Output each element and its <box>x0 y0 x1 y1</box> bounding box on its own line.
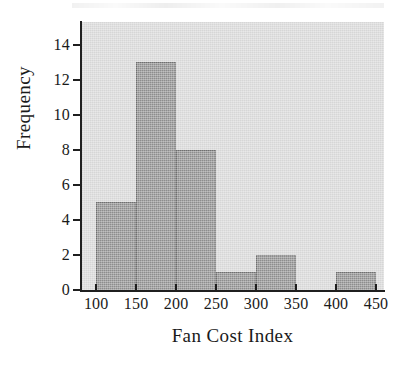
y-tick-label-wrap: 12 <box>36 72 70 88</box>
x-tick-mark <box>135 284 137 292</box>
plot-area <box>81 22 384 290</box>
x-tick-mark <box>95 284 97 292</box>
x-tick-label: 400 <box>314 295 358 313</box>
y-axis-title: Frequency <box>14 28 34 188</box>
x-tick-mark <box>295 284 297 292</box>
y-tick-label-wrap: 0 <box>36 282 70 298</box>
histogram-figure: 02468101214 100150200250300350400450 Fan… <box>0 0 401 370</box>
x-axis-title: Fan Cost Index <box>81 325 384 347</box>
y-axis-line <box>80 21 82 292</box>
x-tick-label: 250 <box>194 295 238 313</box>
x-tick-mark <box>335 284 337 292</box>
y-tick-label: 6 <box>40 177 70 193</box>
scan-artifact-band <box>72 3 384 8</box>
x-tick-label: 350 <box>274 295 318 313</box>
y-tick-mark <box>73 254 81 256</box>
y-tick-mark <box>73 289 81 291</box>
y-tick-label-wrap: 2 <box>36 247 70 263</box>
y-tick-label: 0 <box>40 282 70 298</box>
x-tick-label: 150 <box>114 295 158 313</box>
y-tick-label: 8 <box>40 142 70 158</box>
y-tick-label: 4 <box>40 212 70 228</box>
histogram-bar <box>216 272 256 290</box>
histogram-bar <box>176 150 216 290</box>
x-tick-label: 200 <box>154 295 198 313</box>
x-tick-mark <box>375 284 377 292</box>
y-tick-label-wrap: 8 <box>36 142 70 158</box>
histogram-bar <box>136 62 176 290</box>
x-tick-label: 100 <box>74 295 118 313</box>
y-tick-mark <box>73 219 81 221</box>
y-tick-mark <box>73 114 81 116</box>
y-tick-mark <box>73 149 81 151</box>
y-tick-label-wrap: 10 <box>36 107 70 123</box>
y-tick-label: 10 <box>40 107 70 123</box>
histogram-bar <box>336 272 376 290</box>
x-tick-label: 450 <box>354 295 398 313</box>
y-tick-label: 14 <box>40 37 70 53</box>
y-tick-label-wrap: 4 <box>36 212 70 228</box>
x-tick-mark <box>175 284 177 292</box>
x-axis-line <box>80 290 385 292</box>
x-tick-mark <box>215 284 217 292</box>
histogram-bar <box>96 202 136 290</box>
y-tick-label-wrap: 14 <box>36 37 70 53</box>
x-tick-mark <box>255 284 257 292</box>
bar-series <box>81 22 384 290</box>
y-tick-label: 12 <box>40 72 70 88</box>
y-tick-label: 2 <box>40 247 70 263</box>
y-tick-label-wrap: 6 <box>36 177 70 193</box>
y-tick-mark <box>73 44 81 46</box>
x-tick-label: 300 <box>234 295 278 313</box>
histogram-bar <box>256 255 296 290</box>
y-tick-mark <box>73 184 81 186</box>
y-tick-mark <box>73 79 81 81</box>
